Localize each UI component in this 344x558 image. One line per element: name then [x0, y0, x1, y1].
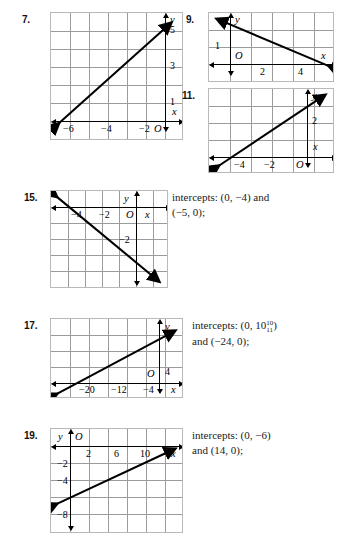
problem-number-11: 11. — [182, 90, 195, 101]
y-axis-label-7: y — [170, 15, 175, 26]
problem-number-17: 17. — [24, 320, 37, 331]
x-axis-label-11: x — [313, 142, 318, 153]
x-tick-label-9-0: 2 — [260, 67, 265, 77]
origin-label-17: O — [147, 369, 155, 380]
origin-label-15: O — [126, 210, 134, 221]
x-tick-label-19-0: 2 — [86, 449, 91, 459]
x-tick-label-11-0: −4 — [234, 160, 245, 170]
y-axis-label-19: y — [58, 432, 63, 443]
x-axis-label-17: x — [171, 385, 176, 396]
y-axis-label-11: y — [312, 91, 317, 102]
problem-number-7: 7. — [22, 14, 30, 25]
graph-15: −4 −2 O −2 x y — [50, 190, 168, 288]
graph-9: 1 O 2 4 x y — [208, 12, 334, 82]
y-axis-label-15: y — [124, 194, 129, 205]
x-tick-label-11-1: −2 — [264, 160, 275, 170]
problem-number-15: 15. — [24, 192, 37, 203]
problem-number-19: 19. — [24, 430, 37, 441]
origin-label-9: O — [235, 51, 243, 62]
x-tick-label-17-2: −4 — [143, 385, 154, 395]
y-tick-label-19-2: −8 — [57, 510, 68, 520]
x-axis-label-7: x — [172, 107, 177, 118]
y-tick-label-17-0: 4 — [165, 367, 170, 377]
x-axis-label-9: x — [321, 51, 326, 62]
answer-15: intercepts: (0, −4) and (−5, 0); — [172, 190, 269, 220]
x-tick-label-7-0: −6 — [63, 124, 74, 134]
answer-17: intercepts: (0, 101011) and (−24, 0); — [192, 318, 277, 349]
x-axis-label-19: x — [171, 449, 176, 460]
x-tick-label-17-0: −20 — [79, 385, 95, 395]
x-tick-label-19-1: 6 — [114, 449, 119, 459]
plot-line-15 — [51, 191, 167, 287]
y-axis-label-17: y — [165, 322, 170, 333]
y-tick-label-7-1: 3 — [170, 61, 175, 71]
answer-17-line2: and (−24, 0); — [192, 334, 277, 349]
problem-number-9: 9. — [186, 14, 194, 25]
origin-label-11: O — [296, 160, 304, 171]
answer-19-line1: intercepts: (0, −6) — [192, 428, 271, 443]
graph-11: 2 −4 −2 O x y — [208, 88, 334, 173]
answer-15-line2: (−5, 0); — [172, 205, 269, 220]
origin-label-19: O — [75, 432, 83, 443]
plot-line-19 — [51, 429, 182, 532]
plot-line-9 — [209, 13, 333, 82]
answer-19-line2: and (14, 0); — [192, 443, 271, 458]
graph-19: y O 2 6 10 −2 −4 −8 x — [50, 428, 183, 533]
y-tick-label-19-0: −2 — [57, 459, 68, 469]
y-tick-label-9-0: 1 — [215, 41, 220, 51]
answer-17-line1: intercepts: (0, 101011) — [192, 318, 277, 334]
graph-17: −20 −12 −4 O 4 x y — [50, 318, 183, 398]
answer-19: intercepts: (0, −6) and (14, 0); — [192, 428, 271, 458]
answer-key-page: 7. — [0, 0, 344, 558]
answer-17-prefix: intercepts: (0, 10 — [192, 319, 266, 331]
y-axis-label-9: y — [235, 15, 240, 26]
x-tick-label-7-1: −4 — [101, 124, 112, 134]
y-tick-label-19-1: −4 — [57, 476, 68, 486]
x-tick-label-19-2: 10 — [140, 449, 150, 459]
graph-7: −6 −4 −2 O 1 3 5 x y — [50, 12, 183, 140]
y-tick-label-11-0: 2 — [312, 116, 317, 126]
x-tick-label-15-1: −2 — [99, 210, 110, 220]
answer-17-suffix: ) — [273, 319, 277, 331]
x-tick-label-7-2: −2 — [139, 124, 150, 134]
answer-15-line1: intercepts: (0, −4) and — [172, 190, 269, 205]
plot-line-7 — [51, 13, 182, 139]
x-tick-label-17-1: −12 — [111, 385, 127, 395]
x-tick-label-9-1: 4 — [298, 67, 303, 77]
y-tick-label-7-2: 5 — [170, 25, 175, 35]
origin-label-7: O — [154, 124, 162, 135]
x-tick-label-15-0: −4 — [71, 210, 82, 220]
x-axis-label-15: x — [145, 210, 150, 221]
y-tick-label-15-0: −2 — [119, 235, 130, 245]
